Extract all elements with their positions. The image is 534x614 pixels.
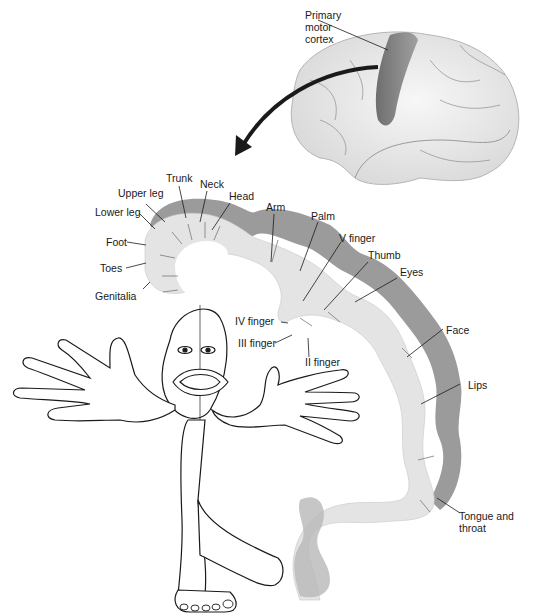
- label-trunk: Trunk: [166, 172, 192, 184]
- label-primary-line1: Primary: [305, 9, 341, 21]
- homunculus-right-foot: [198, 500, 283, 586]
- label-iii-finger: III finger: [238, 337, 276, 349]
- label-lower-leg: Lower leg: [95, 206, 141, 218]
- label-primary-motor-cortex: Primary motor cortex: [305, 9, 341, 45]
- motor-homunculus-diagram: Primary motor cortex Upper leg Trunk Nec…: [0, 0, 534, 614]
- label-head: Head: [229, 190, 254, 202]
- label-lips: Lips: [468, 379, 487, 391]
- homunculus-head: [162, 309, 227, 418]
- label-foot: Foot: [106, 236, 127, 248]
- label-upper-leg: Upper leg: [118, 187, 164, 199]
- label-thumb: Thumb: [368, 249, 401, 261]
- label-palm: Palm: [311, 210, 335, 222]
- label-primary-line2: motor: [305, 21, 341, 33]
- label-tongue-and-throat: Tongue and throat: [459, 510, 514, 534]
- label-tongue-line2: throat: [459, 522, 514, 534]
- homunculus-right-hand: [212, 367, 359, 444]
- label-v-finger: V finger: [339, 232, 375, 244]
- label-iv-finger: IV finger: [235, 315, 274, 327]
- homunculus-left-hand: [13, 338, 175, 422]
- label-genitalia: Genitalia: [95, 290, 136, 302]
- label-eyes: Eyes: [400, 266, 423, 278]
- label-toes: Toes: [100, 262, 122, 274]
- label-ii-finger: II finger: [305, 356, 340, 368]
- label-face: Face: [446, 324, 469, 336]
- brain-illustration: [291, 32, 519, 185]
- label-arm: Arm: [266, 201, 285, 213]
- diagram-artwork: [0, 0, 534, 614]
- label-neck: Neck: [200, 178, 224, 190]
- label-tongue-line1: Tongue and: [459, 510, 514, 522]
- label-primary-line3: cortex: [305, 33, 341, 45]
